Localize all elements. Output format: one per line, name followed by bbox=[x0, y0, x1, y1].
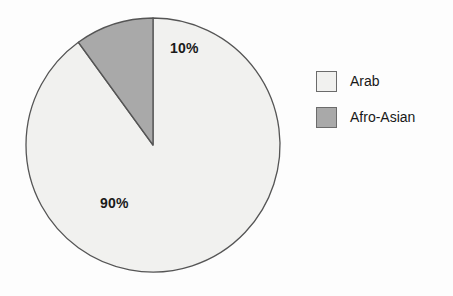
pie-slice-value-afro-asian: 10% bbox=[170, 40, 199, 56]
legend-label-arab: Arab bbox=[350, 73, 380, 89]
pie-slice-value-arab: 90% bbox=[100, 195, 129, 211]
pie-chart-graphic bbox=[0, 0, 453, 296]
legend-swatch-afro-asian bbox=[316, 107, 337, 128]
legend-item-afro-asian[interactable]: Afro-Asian bbox=[316, 99, 446, 135]
legend-swatch-arab bbox=[316, 71, 337, 92]
pie-chart: 90% 10% Arab Afro-Asian bbox=[0, 0, 453, 296]
legend-label-afro-asian: Afro-Asian bbox=[350, 109, 415, 125]
legend-item-arab[interactable]: Arab bbox=[316, 63, 446, 99]
chart-legend: Arab Afro-Asian bbox=[316, 63, 446, 135]
